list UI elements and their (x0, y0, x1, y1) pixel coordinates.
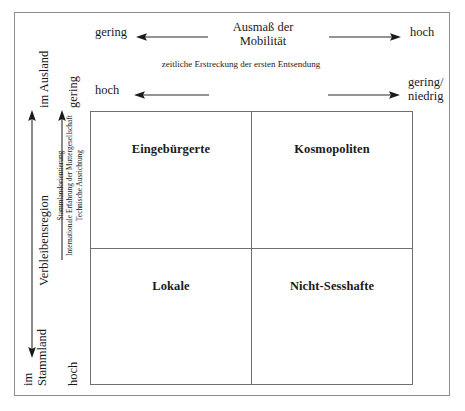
left-inner-axis-title-line2: Internationale Erfahrung der Muttergesel… (65, 115, 74, 256)
second-axis-title: zeitliche Erstreckung der ersten Entsend… (91, 59, 391, 69)
second-axis-right-label-line1: gering/ (408, 75, 443, 89)
left-inner-axis-title-line3: Technische Ausrichtung (75, 115, 84, 256)
quadrant-bottom-right[interactable]: Nicht-Sesshafte (252, 249, 412, 385)
top-axis-right-arrow-icon (328, 31, 403, 43)
quadrant-top-left[interactable]: Eingebürgerte (91, 112, 251, 248)
quadrant-bottom-left[interactable]: Lokale (91, 249, 251, 385)
quadrant-matrix: Eingebürgerte Kosmopoliten Lokale Nicht-… (90, 111, 413, 385)
quadrant-top-right[interactable]: Kosmopoliten (252, 112, 412, 248)
top-axis-left-label: gering (95, 25, 127, 39)
quadrant-top-right-label: Kosmopoliten (294, 142, 370, 157)
second-axis-right-arrow-icon (327, 89, 402, 101)
quadrant-bottom-left-label: Lokale (152, 279, 189, 294)
left-outer-axis-bottom-label-line2: Stammland (35, 329, 49, 386)
quadrant-bottom-right-label: Nicht-Sesshafte (290, 279, 374, 294)
quadrant-top-left-label: Eingebürgerte (132, 142, 210, 157)
left-inner-axis-title: Stammlandorientierung Internationale Erf… (56, 115, 84, 256)
second-axis-right-label-line2: niedrig (408, 89, 443, 103)
top-axis-title: Ausmaß der Mobilität (208, 20, 318, 48)
left-inner-axis-title-line1: Stammlandorientierung (56, 115, 65, 256)
second-axis-left-label: hoch (95, 83, 119, 97)
second-axis-right-label: gering/ niedrig (408, 75, 443, 103)
left-inner-axis-bottom-label: hoch (66, 362, 80, 386)
top-axis-left-arrow-icon (134, 31, 209, 43)
left-inner-axis-top-label: gering (66, 76, 80, 108)
top-axis-title-line2: Mobilität (208, 34, 318, 48)
top-axis-right-label: hoch (410, 25, 434, 39)
top-axis-title-line1: Ausmaß der (208, 20, 318, 34)
left-outer-axis-top-label: im Ausland (37, 51, 51, 108)
second-axis-left-arrow-icon (132, 89, 210, 101)
left-outer-axis-title: Verbleibensregion (37, 195, 51, 286)
left-outer-axis-bottom-label-line1: im (21, 373, 35, 386)
